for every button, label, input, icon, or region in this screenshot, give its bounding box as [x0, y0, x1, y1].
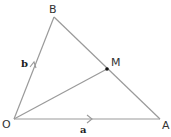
vector-triangle-diagram: B M A O b a: [0, 0, 171, 137]
label-A: A: [162, 119, 170, 132]
arrow-b-icon: [30, 62, 36, 68]
label-vector-b: b: [21, 58, 28, 69]
segment-OM: [14, 69, 107, 119]
point-M: [105, 67, 109, 71]
label-B: B: [49, 3, 57, 16]
label-vector-a: a: [80, 124, 87, 135]
label-O: O: [2, 118, 11, 131]
label-M: M: [111, 56, 121, 69]
segment-OB: [14, 17, 54, 119]
